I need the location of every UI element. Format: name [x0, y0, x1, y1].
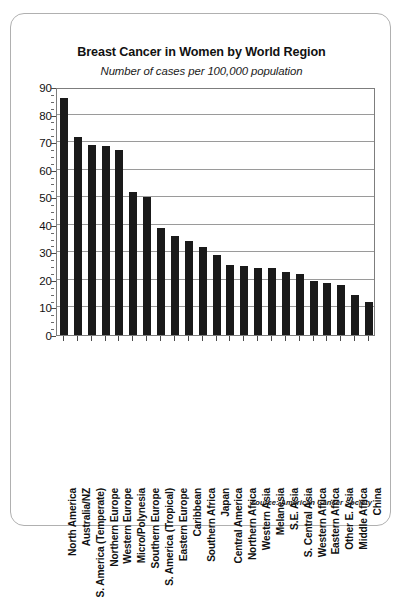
- x-tick: [174, 336, 175, 341]
- chart-title: Breast Cancer in Women by World Region: [11, 45, 392, 59]
- x-tick-label: Australia/NZ: [81, 488, 92, 546]
- x-tick: [257, 336, 258, 341]
- y-tick-minor: [51, 219, 54, 220]
- x-tick-label: Eastern Europe: [178, 488, 189, 561]
- x-tick: [118, 336, 119, 341]
- x-tick: [216, 336, 217, 341]
- y-tick-label: 40: [26, 220, 52, 232]
- x-tick-label: Japan: [220, 488, 231, 517]
- bar: [337, 285, 345, 335]
- gridline: [57, 141, 374, 142]
- x-tick: [243, 336, 244, 341]
- x-tick: [271, 336, 272, 341]
- y-tick-label: 10: [26, 302, 52, 314]
- y-tick-minor: [51, 329, 54, 330]
- x-tick-label: S. America (Tropical): [164, 488, 175, 586]
- bar: [296, 274, 304, 335]
- y-tick-label: 70: [26, 137, 52, 149]
- y-tick-minor: [51, 240, 54, 241]
- x-tick-label: China: [372, 488, 383, 516]
- x-tick-label: Southern Europe: [150, 488, 161, 568]
- y-tick-minor: [51, 288, 54, 289]
- bar: [282, 272, 290, 335]
- y-tick-label: 30: [26, 247, 52, 259]
- chart-card: Breast Cancer in Women by World Region N…: [10, 13, 391, 526]
- bar: [102, 146, 110, 335]
- x-tick: [368, 336, 369, 341]
- bar: [60, 98, 68, 335]
- x-tick-label: North America: [67, 488, 78, 556]
- x-axis-labels: North AmericaAustralia/NZS. America (Tem…: [56, 342, 375, 492]
- x-tick: [299, 336, 300, 341]
- bar: [115, 150, 123, 335]
- y-tick-minor: [51, 322, 54, 323]
- gridline: [57, 114, 374, 115]
- x-tick-label: Micro/Polynesia: [136, 488, 147, 563]
- x-tick: [354, 336, 355, 341]
- x-tick-label: Southern Africa: [206, 488, 217, 562]
- y-tick-minor: [51, 157, 54, 158]
- x-tick: [313, 336, 314, 341]
- y-tick-minor: [51, 260, 54, 261]
- y-tick-minor: [51, 136, 54, 137]
- y-tick-minor: [51, 191, 54, 192]
- x-tick: [132, 336, 133, 341]
- bar: [199, 247, 207, 335]
- x-tick-label: Melanesia: [275, 488, 286, 535]
- y-tick-label: 80: [26, 110, 52, 122]
- y-tick-minor: [51, 267, 54, 268]
- bar: [74, 137, 82, 335]
- x-tick: [77, 336, 78, 341]
- bar: [88, 145, 96, 335]
- y-tick-minor: [51, 95, 54, 96]
- bar: [143, 197, 151, 335]
- y-tick-minor: [51, 205, 54, 206]
- bar: [365, 302, 373, 335]
- bar: [268, 268, 276, 336]
- x-tick: [326, 336, 327, 341]
- y-tick-label: 60: [26, 165, 52, 177]
- y-tick-label: 20: [26, 275, 52, 287]
- y-tick-minor: [51, 212, 54, 213]
- x-tick: [160, 336, 161, 341]
- y-tick-minor: [51, 246, 54, 247]
- x-tick: [91, 336, 92, 341]
- x-tick: [340, 336, 341, 341]
- y-tick-minor: [51, 122, 54, 123]
- x-tick: [105, 336, 106, 341]
- y-tick-minor: [51, 295, 54, 296]
- bar: [310, 281, 318, 335]
- y-tick-label: 0: [26, 330, 52, 342]
- x-tick-label: Northern Europe: [109, 488, 120, 567]
- y-tick-minor: [51, 164, 54, 165]
- y-tick-label: 90: [26, 82, 52, 94]
- y-tick-minor: [51, 184, 54, 185]
- bar: [351, 295, 359, 335]
- x-tick: [63, 336, 64, 341]
- bar: [129, 192, 137, 335]
- y-tick-minor: [51, 150, 54, 151]
- x-tick-label: Caribbean: [192, 488, 203, 536]
- bar: [226, 265, 234, 335]
- x-tick: [146, 336, 147, 341]
- y-tick-minor: [51, 102, 54, 103]
- x-tick-label: Central America: [233, 488, 244, 564]
- x-tick: [202, 336, 203, 341]
- bar: [254, 268, 262, 336]
- bar: [323, 283, 331, 335]
- y-tick-minor: [51, 129, 54, 130]
- x-tick: [285, 336, 286, 341]
- y-axis-labels: 0102030405060708090: [19, 88, 52, 336]
- bar: [213, 255, 221, 335]
- bar: [171, 236, 179, 335]
- y-tick-minor: [51, 302, 54, 303]
- plot-area: [56, 88, 375, 336]
- x-tick-label: S. America (Temperate): [95, 488, 106, 597]
- source-note: source: American Cancer Society: [251, 498, 372, 507]
- x-tick-label: Western Europe: [122, 488, 133, 564]
- bar: [157, 228, 165, 335]
- y-tick-minor: [51, 178, 54, 179]
- x-tick: [188, 336, 189, 341]
- y-tick-minor: [51, 315, 54, 316]
- bar: [240, 266, 248, 335]
